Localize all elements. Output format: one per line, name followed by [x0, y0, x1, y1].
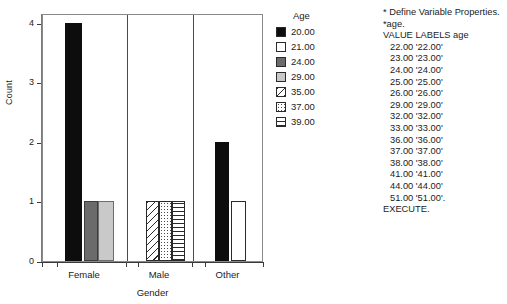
- legend-item-35.00: 35.00: [276, 85, 362, 99]
- bar-male-39.00: [172, 201, 185, 261]
- x-category-other: Other: [192, 269, 263, 280]
- legend: Age 20.0021.0024.0029.0035.0037.0039.00: [276, 10, 362, 130]
- bar-male-37.00: [159, 201, 172, 261]
- syntax-line: 24.00 '24.00': [383, 65, 507, 77]
- syntax-line: 32.00 '32.00': [383, 111, 507, 123]
- bar-other-20.00: [215, 142, 229, 261]
- panel-separator-2: [193, 15, 194, 261]
- x-category-male: Male: [126, 269, 192, 280]
- bar-female-29.00: [98, 201, 114, 261]
- syntax-line: 36.00 '36.00': [383, 135, 507, 147]
- legend-item-20.00: 20.00: [276, 25, 362, 39]
- legend-item-label: 39.00: [291, 117, 315, 127]
- legend-item-label: 35.00: [291, 87, 315, 97]
- syntax-line: EXECUTE.: [383, 204, 507, 216]
- plot-frame: [42, 14, 263, 262]
- syntax-line: 22.00 '22.00': [383, 42, 507, 54]
- legend-items: 20.0021.0024.0029.0035.0037.0039.00: [276, 25, 362, 129]
- syntax-line: 51.00 '51.00'.: [383, 193, 507, 205]
- panel-separator-1: [127, 15, 128, 261]
- legend-item-label: 20.00: [291, 27, 315, 37]
- x-axis-line: [41, 262, 264, 263]
- legend-swatch-icon: [276, 102, 286, 112]
- legend-item-label: 24.00: [291, 57, 315, 67]
- bar-female-20.00: [65, 23, 82, 261]
- x-category-female: Female: [42, 269, 126, 280]
- syntax-line: 23.00 '23.00': [383, 53, 507, 65]
- legend-swatch-icon: [276, 117, 286, 127]
- legend-item-24.00: 24.00: [276, 55, 362, 69]
- syntax-line: 26.00 '26.00': [383, 88, 507, 100]
- syntax-line: 29.00 '29.00': [383, 100, 507, 112]
- legend-item-label: 29.00: [291, 72, 315, 82]
- legend-swatch-icon: [276, 87, 286, 97]
- spss-output-page: Count 43210 FemaleMaleOther Gender Age 2…: [0, 0, 507, 304]
- syntax-text-block: * Define Variable Properties.*age.VALUE …: [383, 7, 507, 216]
- legend-swatch-icon: [276, 42, 286, 52]
- legend-swatch-icon: [276, 72, 286, 82]
- syntax-line: 41.00 '41.00': [383, 169, 507, 181]
- syntax-line: 33.00 '33.00': [383, 123, 507, 135]
- bar-male-35.00: [146, 201, 159, 261]
- x-axis-title: Gender: [42, 287, 263, 298]
- legend-item-29.00: 29.00: [276, 70, 362, 84]
- syntax-line: * Define Variable Properties.: [383, 7, 507, 19]
- syntax-line: 37.00 '37.00': [383, 146, 507, 158]
- legend-swatch-icon: [276, 27, 286, 37]
- x-tick-mark: [138, 262, 139, 267]
- x-tick-mark: [42, 262, 43, 267]
- x-tick-mark: [192, 262, 193, 267]
- legend-item-21.00: 21.00: [276, 40, 362, 54]
- syntax-line: *age.: [383, 19, 507, 31]
- legend-item-label: 37.00: [291, 102, 315, 112]
- bar-other-21.00: [231, 201, 246, 261]
- x-tick-mark: [263, 262, 264, 267]
- legend-item-39.00: 39.00: [276, 115, 362, 129]
- bar-chart: Count 43210 FemaleMaleOther Gender: [0, 0, 270, 304]
- syntax-line: 25.00 '25.00': [383, 77, 507, 89]
- legend-swatch-icon: [276, 57, 286, 67]
- legend-item-37.00: 37.00: [276, 100, 362, 114]
- syntax-line: 38.00 '38.00': [383, 158, 507, 170]
- legend-title: Age: [293, 10, 362, 21]
- syntax-line: 44.00 '44.00': [383, 181, 507, 193]
- bar-female-24.00: [84, 201, 98, 261]
- x-tick-mark: [57, 262, 58, 267]
- legend-item-label: 21.00: [291, 42, 315, 52]
- syntax-line: VALUE LABELS age: [383, 30, 507, 42]
- x-tick-mark: [126, 262, 127, 267]
- x-tick-mark: [205, 262, 206, 267]
